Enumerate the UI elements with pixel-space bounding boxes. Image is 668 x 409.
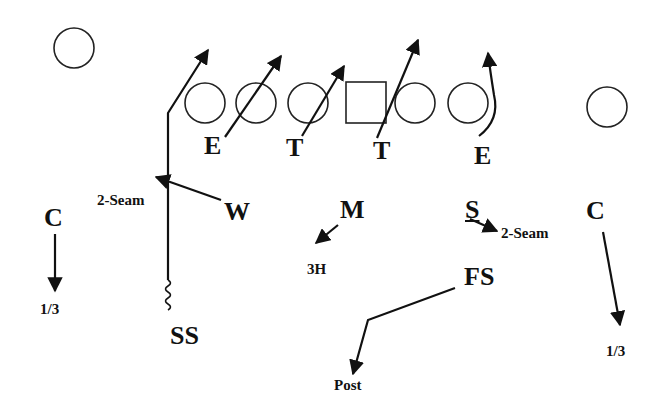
defender-label-dt-left: T	[286, 135, 303, 161]
offense-formation	[54, 28, 627, 127]
defender-label-dt-right: T	[373, 138, 390, 164]
de-left-rush	[225, 56, 281, 137]
de-right-loop	[479, 53, 495, 136]
offense-player-wr-left	[54, 28, 94, 68]
defender-label-cb-right: C	[586, 198, 605, 224]
offense-player-ol-2	[236, 83, 276, 123]
assignment-label-mike-assignment: 3H	[307, 262, 326, 277]
assignment-label-will-assignment: 2-Seam	[97, 193, 145, 208]
defender-label-will: W	[224, 199, 250, 225]
will-drop	[156, 177, 221, 200]
assignment-label-fs-assignment: Post	[334, 378, 362, 393]
cb-right-drop	[603, 232, 620, 325]
coverage-diagram: ETTECWMSCFSSS2-Seam1/33H2-Seam1/3Post	[0, 0, 668, 409]
offense-player-wr-right	[587, 87, 627, 127]
offense-player-ol-1	[185, 83, 225, 123]
offense-player-ol-5	[448, 83, 488, 123]
offense-player-ol-4	[395, 83, 435, 123]
ss-wiggle	[166, 280, 171, 310]
offense-player-center	[346, 82, 386, 123]
ss-blitz-route	[168, 50, 208, 280]
mike-drop	[316, 225, 338, 243]
fs-post-drop	[353, 288, 455, 374]
assignment-label-cb-right-assignment: 1/3	[606, 344, 625, 359]
defender-label-sam: S	[465, 197, 479, 223]
defender-label-de-right: E	[474, 143, 491, 169]
defender-label-free-safety: FS	[464, 264, 494, 290]
defender-label-de-left: E	[204, 133, 221, 159]
dt-left-rush	[302, 66, 344, 136]
assignment-label-sam-assignment: 2-Seam	[501, 226, 549, 241]
assignment-label-cb-left-assignment: 1/3	[40, 302, 59, 317]
defender-label-strong-safety: SS	[170, 323, 199, 349]
defender-label-cb-left: C	[44, 205, 63, 231]
defender-label-mike: M	[340, 197, 365, 223]
